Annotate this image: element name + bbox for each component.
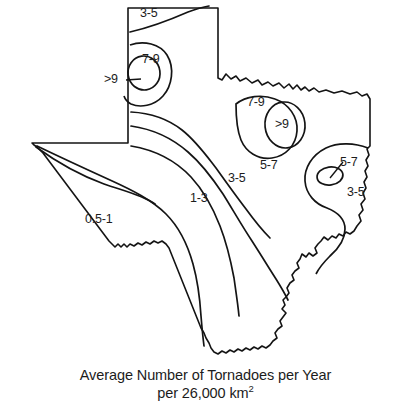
contour-label-1-3: 1-3 <box>190 192 207 205</box>
contour-label-5-7-east: 5-7 <box>340 156 357 169</box>
contour-label-3-5-east: 3-5 <box>347 186 364 199</box>
contour-label-3-5-central: 3-5 <box>228 172 245 185</box>
figure-caption: Average Number of Tornadoes per Year per… <box>0 366 411 402</box>
caption-line-2: per 26,000 km2 <box>0 384 411 402</box>
tornado-frequency-figure: 3-5 7-9 >9 7-9 >9 5-7 3-5 1-3 0.5-1 5-7 … <box>0 0 411 415</box>
contour-label-3-5-panhandle: 3-5 <box>140 7 157 20</box>
contour-label-greater-9-north-central: >9 <box>275 118 289 131</box>
contour-label-greater-9-panhandle: >9 <box>104 73 118 86</box>
texas-contour-map <box>0 0 411 415</box>
caption-line-2-text: per 26,000 km <box>157 385 248 401</box>
contour-label-5-7-central: 5-7 <box>260 159 277 172</box>
contour-label-7-9-panhandle: 7-9 <box>142 53 159 66</box>
contour-label-7-9-north-central: 7-9 <box>247 96 264 109</box>
caption-line-1: Average Number of Tornadoes per Year <box>80 367 331 383</box>
contour-label-0-5-1: 0.5-1 <box>85 213 113 226</box>
caption-exponent: 2 <box>249 383 254 394</box>
